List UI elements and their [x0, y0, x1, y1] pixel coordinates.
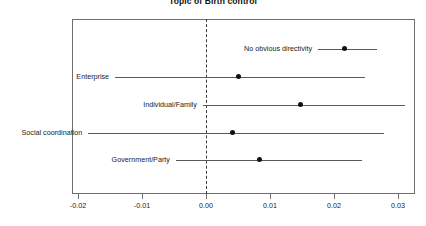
page-title: Topic of Birth control [0, 0, 426, 6]
x-axis-tick [78, 194, 79, 199]
confidence-interval-bar [318, 49, 377, 50]
confidence-interval-bar [176, 160, 362, 161]
data-row: No obvious directivity [0, 42, 426, 56]
x-axis-tick-label: -0.02 [70, 201, 86, 210]
chart-screenshot: Topic of Birth control No obvious direct… [0, 0, 426, 226]
confidence-interval-bar [203, 105, 405, 106]
data-row: Individual/Family [0, 98, 426, 112]
data-row: Government/Party [0, 153, 426, 167]
row-label: Individual/Family [143, 98, 197, 112]
estimate-point-marker [257, 157, 262, 162]
estimate-point-marker [298, 102, 303, 107]
x-axis-tick-label: -0.01 [134, 201, 150, 210]
x-axis-tick-label: 0.03 [391, 201, 405, 210]
data-row: Social coordination [0, 126, 426, 140]
row-label: No obvious directivity [244, 42, 312, 56]
row-label: Government/Party [112, 153, 170, 167]
x-axis-tick [334, 194, 335, 199]
x-axis-tick [206, 194, 207, 199]
x-axis-tick [398, 194, 399, 199]
x-axis-tick-label: 0.01 [263, 201, 277, 210]
confidence-interval-bar [88, 133, 384, 134]
x-axis-tick-label: 0.00 [199, 201, 213, 210]
x-axis-tick-label: 0.02 [327, 201, 341, 210]
x-axis-tick [270, 194, 271, 199]
row-label: Enterprise [76, 70, 109, 84]
row-label: Social coordination [22, 126, 83, 140]
data-row: Enterprise [0, 70, 426, 84]
estimate-point-marker [342, 46, 347, 51]
x-axis-tick [142, 194, 143, 199]
estimate-point-marker [236, 74, 241, 79]
estimate-point-marker [230, 130, 235, 135]
